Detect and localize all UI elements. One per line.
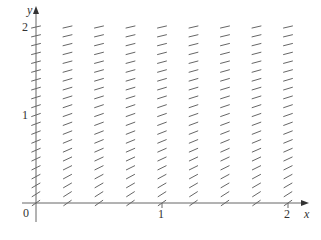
slope-segment <box>126 131 135 135</box>
slope-segment <box>94 131 103 135</box>
slope-segment <box>63 26 73 28</box>
slope-segment <box>126 70 136 73</box>
slope-segment <box>126 52 136 55</box>
slope-segment <box>252 35 262 37</box>
slope-segment <box>126 113 135 116</box>
slope-segment <box>126 148 135 152</box>
slope-segment <box>284 174 293 179</box>
slope-segment <box>95 183 104 188</box>
slope-segment <box>94 140 103 144</box>
slope-segment <box>189 61 199 64</box>
slope-segment <box>63 96 73 99</box>
slope-segment <box>63 166 72 170</box>
slope-segment <box>284 183 293 188</box>
slope-segment <box>157 105 166 108</box>
slope-segment <box>126 157 135 161</box>
slope-segment <box>220 43 230 45</box>
slope-segment <box>252 61 262 64</box>
slope-segment <box>189 35 199 37</box>
slope-segment <box>252 105 261 108</box>
slope-segment <box>157 78 167 81</box>
slope-segment <box>63 131 72 135</box>
slope-segment <box>283 78 293 81</box>
slope-segment <box>95 174 104 179</box>
slope-segment <box>283 26 293 28</box>
slope-segment <box>126 140 135 144</box>
slope-segment <box>126 192 134 197</box>
slope-segment <box>284 192 292 197</box>
slope-segment <box>220 140 229 144</box>
slope-segment <box>63 61 73 64</box>
slope-segment <box>126 174 135 179</box>
slope-segment <box>189 192 197 197</box>
slope-segment <box>157 96 167 99</box>
slope-segment <box>189 183 198 188</box>
slope-segment <box>220 157 229 161</box>
slope-segment <box>63 43 73 45</box>
slope-segment <box>252 183 261 188</box>
slope-segment <box>221 174 230 179</box>
slope-segment <box>220 113 229 116</box>
slope-segment <box>252 157 261 161</box>
slope-segment <box>157 87 167 90</box>
slope-segment <box>189 131 198 135</box>
slope-segment <box>157 26 167 28</box>
slope-segment <box>252 70 262 73</box>
slope-segment <box>189 166 198 170</box>
slope-segment <box>63 113 72 116</box>
slope-segment <box>252 52 262 55</box>
slope-segment <box>126 43 136 45</box>
slope-segment <box>157 113 166 116</box>
slope-segment <box>221 192 229 197</box>
slope-segment <box>157 35 167 37</box>
slope-segment <box>221 183 230 188</box>
slope-segment <box>94 43 104 45</box>
slope-segment <box>95 192 103 197</box>
slope-segment <box>63 192 71 197</box>
slope-segment <box>283 157 292 161</box>
slope-segment <box>252 122 261 125</box>
slope-segment <box>283 87 293 90</box>
slope-segment <box>252 113 261 116</box>
slope-segment <box>220 35 230 37</box>
slope-segment <box>252 174 261 179</box>
y-tick-label-1: 1 <box>22 109 28 121</box>
slope-segment <box>283 43 293 45</box>
slope-segment <box>252 43 262 45</box>
slope-segment <box>220 52 230 55</box>
slope-segment <box>157 70 167 73</box>
slope-segment <box>94 78 104 81</box>
slope-segment <box>252 131 261 135</box>
slope-segment <box>126 26 136 28</box>
slope-segment <box>94 148 103 152</box>
slope-segment <box>95 166 104 170</box>
x-axis-arrow-icon <box>301 200 309 206</box>
slope-segment <box>252 87 262 90</box>
slope-segment <box>94 122 103 125</box>
slope-segment <box>63 105 72 108</box>
slope-segment <box>157 61 167 64</box>
slope-segment <box>220 26 230 28</box>
slope-segment <box>283 61 293 64</box>
slope-segment <box>63 174 72 179</box>
slope-segment <box>157 148 166 152</box>
slope-segment <box>283 70 293 73</box>
slope-segment <box>283 122 292 125</box>
slope-segment <box>283 35 293 37</box>
slope-segment <box>220 148 229 152</box>
slope-segment <box>157 131 166 135</box>
slope-segment <box>283 113 292 116</box>
slope-segment <box>94 52 104 55</box>
slope-segment <box>252 148 261 152</box>
slope-segment <box>63 52 73 55</box>
slope-segment <box>283 140 292 144</box>
slope-segment <box>284 166 293 170</box>
slope-segment <box>63 148 72 152</box>
slope-segment <box>126 105 135 108</box>
slope-segment <box>63 87 73 90</box>
slope-segment <box>220 131 229 135</box>
slope-segment <box>63 122 72 125</box>
slope-segment <box>94 96 104 99</box>
slope-segment <box>220 78 230 81</box>
slope-segment <box>158 183 167 188</box>
